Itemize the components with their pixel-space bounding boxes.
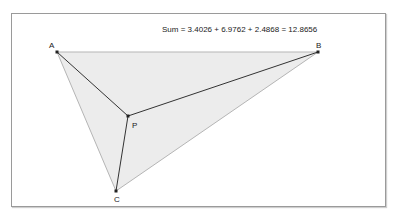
- label-a: A: [49, 41, 55, 50]
- label-c: C: [114, 195, 120, 204]
- sum-text: Sum = 3.4026 + 6.9762 + 2.4868 = 12.8656: [162, 25, 318, 34]
- point-c[interactable]: [115, 190, 118, 193]
- label-b: B: [316, 41, 321, 50]
- point-p[interactable]: [127, 115, 130, 118]
- triangle-diagram: A B C P Sum = 3.4026 + 6.9762 + 2.4868 =…: [0, 0, 395, 217]
- point-a[interactable]: [56, 51, 59, 54]
- point-b[interactable]: [317, 51, 320, 54]
- triangle-abc: [57, 52, 318, 191]
- label-p: P: [132, 121, 137, 130]
